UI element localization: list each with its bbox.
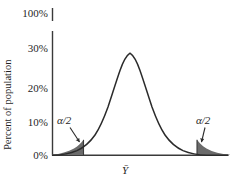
y-tick-label-0: 0% bbox=[33, 149, 48, 161]
y-tick-label-100: 100% bbox=[22, 7, 48, 19]
alpha-left-arrow bbox=[70, 128, 80, 143]
x-axis-label: Ȳ bbox=[122, 164, 130, 176]
distribution-figure: Percent of population 100% 30% 20% 10% 0… bbox=[0, 0, 235, 187]
y-tick-label-20: 20% bbox=[28, 82, 48, 94]
y-axis-label: Percent of population bbox=[2, 59, 13, 150]
y-tick-label-30: 30% bbox=[28, 42, 48, 54]
right-tail-fill bbox=[197, 140, 235, 155]
alpha-right-label: α/2 bbox=[196, 114, 211, 126]
chart-canvas: Percent of population 100% 30% 20% 10% 0… bbox=[0, 0, 235, 187]
alpha-right-arrow bbox=[202, 128, 206, 143]
left-tail-region bbox=[44, 140, 84, 155]
y-tick-label-10: 10% bbox=[28, 116, 48, 128]
left-tail-fill bbox=[44, 140, 84, 155]
right-tail-region bbox=[197, 140, 235, 155]
alpha-left-label: α/2 bbox=[57, 114, 72, 126]
